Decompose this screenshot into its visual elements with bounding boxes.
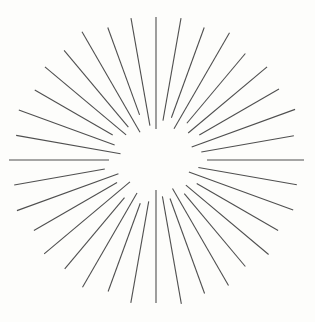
starburst-canvas bbox=[0, 0, 315, 322]
figure-background bbox=[0, 0, 315, 322]
starburst-figure bbox=[0, 0, 315, 322]
